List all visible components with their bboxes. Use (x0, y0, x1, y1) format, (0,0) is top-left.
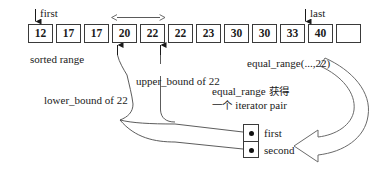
equal-range-note-line2-cjk: 一个 (212, 99, 232, 111)
equal-range-note-line2-en: iterator pair (235, 99, 287, 111)
pair-second-label: second (264, 145, 295, 156)
pair-second-cell (244, 142, 258, 159)
first-pointer-label: first (40, 8, 58, 19)
pair-connector-lines (120, 120, 243, 149)
array-cell: 17 (56, 24, 81, 43)
equal-range-call-label: equal_range(...,22) (247, 58, 330, 69)
array-cell: 12 (28, 24, 53, 43)
array-cell: 23 (196, 24, 221, 43)
upper-bound-label: upper_bound of 22 (136, 76, 220, 87)
array-cell: 33 (280, 24, 305, 43)
sorted-range-caption: sorted range (30, 54, 84, 65)
equal-range-note-line2: 一个 iterator pair (212, 99, 289, 113)
last-pointer-label: last (310, 8, 325, 19)
array-cell: 40 (308, 24, 333, 43)
array-cell: 17 (84, 24, 109, 43)
pair-first-cell (244, 125, 258, 142)
array-cell: 30 (224, 24, 249, 43)
array-cell: 20 (112, 24, 137, 43)
array-cell-empty (336, 24, 361, 43)
pointer-dot-icon (249, 148, 254, 153)
pointer-dot-icon (249, 131, 254, 136)
array-cell: 30 (252, 24, 277, 43)
sorted-range-array: 12 17 17 20 22 22 23 30 30 33 40 (28, 24, 361, 43)
array-cell: 22 (140, 24, 165, 43)
diagram-canvas: 12 17 17 20 22 22 23 30 30 33 40 first l… (0, 0, 386, 172)
equal-range-note-line1: equal_range 获得 (212, 85, 289, 99)
curved-block-arrow-icon (294, 58, 369, 162)
iterator-pair-box (243, 124, 259, 158)
array-cell: 22 (168, 24, 193, 43)
equal-range-note: equal_range 获得 一个 iterator pair (212, 85, 289, 113)
equal-range-note-line1-cjk: 获得 (269, 85, 289, 97)
lower-bound-label: lower_bound of 22 (44, 95, 128, 106)
equal-range-note-line1-en: equal_range (212, 85, 266, 97)
pair-first-label: first (264, 128, 282, 139)
